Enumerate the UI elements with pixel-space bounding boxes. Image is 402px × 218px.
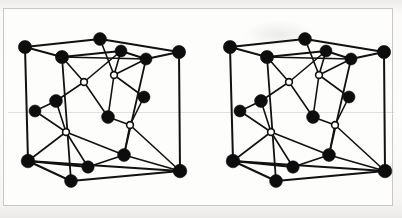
bond-line [384, 52, 385, 171]
atom-filled-circle [226, 154, 240, 168]
atom-open-circle [286, 79, 293, 86]
atom-filled-circle [345, 53, 357, 65]
atom-filled-circle [255, 95, 268, 108]
unit-cell-right [4, 9, 394, 207]
atom-filled-circle [299, 33, 312, 46]
atom-open-circle [316, 72, 323, 79]
figure-frame [3, 8, 393, 206]
atom-filled-circle [323, 149, 336, 162]
atom-filled-circle [234, 105, 246, 117]
bond-line [267, 51, 326, 57]
bond-line [305, 39, 384, 52]
figure-root: Crystal lattice unit cell stereo pair Tw… [0, 0, 402, 218]
atom-filled-circle [378, 164, 392, 178]
atom-filled-circle [320, 45, 332, 57]
bond-line [271, 132, 329, 155]
atom-filled-circle [343, 91, 355, 103]
bond-line [233, 132, 271, 161]
bond-line [230, 47, 233, 161]
atom-open-circle [268, 129, 275, 136]
bond-line [230, 39, 305, 47]
atom-open-circle [332, 122, 339, 129]
atom-filled-circle [223, 40, 236, 53]
atom-filled-circle [260, 50, 273, 63]
atom-filled-circle [270, 175, 283, 188]
atom-filled-circle [307, 111, 320, 124]
atom-filled-circle [287, 161, 299, 173]
bond-line [267, 57, 351, 59]
atom-filled-circle [377, 45, 390, 58]
